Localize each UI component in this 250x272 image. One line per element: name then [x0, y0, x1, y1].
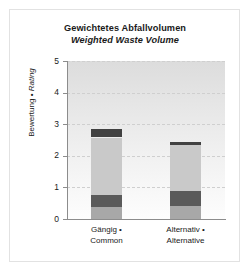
y-tick-label: 3 — [45, 119, 59, 129]
bar[interactable] — [91, 129, 122, 219]
y-tick-label: 2 — [45, 150, 59, 160]
y-axis-label-german: Bewertung — [27, 99, 36, 137]
gridline — [67, 61, 225, 62]
y-axis-label: Bewertung • Rating — [27, 58, 36, 148]
chart-subtitle-english: Weighted Waste Volume — [0, 34, 250, 46]
y-tick-mark — [63, 124, 67, 125]
bar-segment[interactable] — [170, 142, 201, 145]
bar-segment[interactable] — [91, 195, 122, 207]
chart-title-german: Gewichtetes Abfallvolumen — [0, 22, 250, 34]
chart-title: Gewichtetes Abfallvolumen Weighted Waste… — [0, 22, 250, 46]
y-tick-mark — [63, 219, 67, 220]
bar-segment[interactable] — [170, 191, 201, 206]
y-tick-mark — [63, 187, 67, 188]
bar-segment[interactable] — [170, 145, 201, 191]
chart-figure: Gewichtetes Abfallvolumen Weighted Waste… — [0, 0, 250, 272]
y-tick-label: 4 — [45, 87, 59, 97]
y-tick-label: 0 — [45, 214, 59, 224]
bar-segment[interactable] — [91, 207, 122, 219]
gridline — [67, 93, 225, 94]
x-tick-label: Gängig •Common — [64, 225, 150, 246]
x-tick-label-german: Gängig • — [64, 225, 150, 236]
plot-area — [67, 61, 225, 219]
bar-segment[interactable] — [170, 206, 201, 219]
y-axis-line — [67, 61, 68, 220]
bar-segment[interactable] — [91, 129, 122, 138]
bar-segment[interactable] — [91, 138, 122, 196]
gridline — [67, 124, 225, 125]
y-axis-label-english: Rating — [27, 68, 36, 91]
y-tick-label: 5 — [45, 56, 59, 66]
x-axis-line — [67, 219, 226, 220]
y-tick-label: 1 — [45, 182, 59, 192]
y-tick-mark — [63, 93, 67, 94]
x-tick-label-english: Alternative — [143, 236, 229, 247]
y-axis-label-separator: • — [27, 91, 36, 98]
bar[interactable] — [170, 142, 201, 219]
x-tick-label-german: Alternativ • — [143, 225, 229, 236]
y-tick-mark — [63, 156, 67, 157]
y-tick-mark — [63, 61, 67, 62]
x-tick-label: Alternativ •Alternative — [143, 225, 229, 246]
x-tick-label-english: Common — [64, 236, 150, 247]
